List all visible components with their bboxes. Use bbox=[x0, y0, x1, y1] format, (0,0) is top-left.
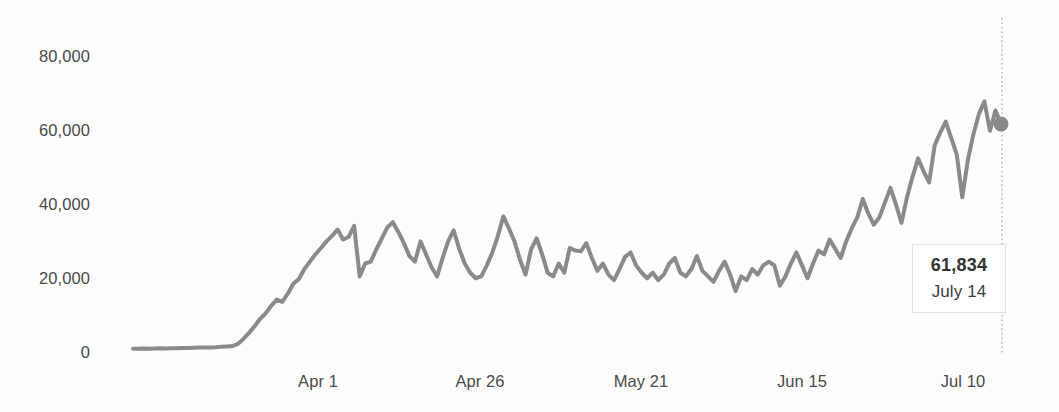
y-tick-label: 60,000 bbox=[0, 121, 90, 140]
x-tick-label: May 21 bbox=[614, 372, 669, 391]
y-tick-label: 40,000 bbox=[0, 195, 90, 214]
line-chart: 80,000 60,000 40,000 20,000 0 Apr 1 Apr … bbox=[0, 0, 1059, 412]
x-tick-label: Jun 15 bbox=[777, 372, 827, 391]
highlighted-data-point-marker[interactable] bbox=[994, 116, 1009, 131]
series-line bbox=[133, 101, 1001, 348]
chart-plot-area bbox=[0, 0, 1059, 412]
tooltip-value: 61,834 bbox=[931, 255, 987, 276]
value-tooltip: 61,834 July 14 bbox=[912, 244, 1006, 313]
y-tick-label: 80,000 bbox=[0, 47, 90, 66]
tooltip-date: July 14 bbox=[932, 282, 987, 302]
y-tick-label: 20,000 bbox=[0, 269, 90, 288]
y-tick-label: 0 bbox=[0, 343, 90, 362]
data-line-group bbox=[133, 101, 1001, 348]
x-tick-label: Apr 1 bbox=[298, 372, 338, 391]
x-tick-label: Apr 26 bbox=[455, 372, 504, 391]
x-tick-label: Jul 10 bbox=[941, 372, 986, 391]
